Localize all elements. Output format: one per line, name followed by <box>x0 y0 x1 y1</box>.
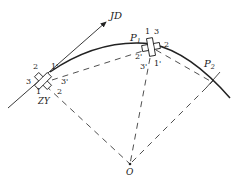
label-zy-3: 3 <box>26 77 31 86</box>
radius-zy-o <box>46 86 130 164</box>
label-p1-1: 1 <box>145 27 150 36</box>
chord-zy-p1 <box>52 50 146 80</box>
center-point-o <box>129 163 132 166</box>
label-zy: ZY <box>37 96 51 106</box>
label-p1-1p: 1' <box>154 59 161 68</box>
label-p1-3: 3 <box>154 27 159 36</box>
radius-p1-o <box>130 58 150 164</box>
label-p1-2p: 2' <box>135 52 142 61</box>
label-zy-1p: 1' <box>51 62 58 71</box>
label-zy-2: 2 <box>33 62 38 71</box>
radius-p2-o <box>130 80 214 164</box>
label-zy-3p: 3' <box>61 77 68 86</box>
label-p1-2: 2 <box>164 40 169 49</box>
curve-diagram: JD 2 1' 3 3' 1 2 ZY P1 1 3 2 2' 3' 1' P2… <box>0 0 238 188</box>
label-p1-3p: 3' <box>140 62 147 71</box>
label-jd: JD <box>108 10 122 21</box>
label-zy-1: 1 <box>36 87 41 96</box>
label-o: O <box>126 167 134 177</box>
label-zy-2p: 2 <box>57 87 62 96</box>
label-p2: P2 <box>203 58 215 71</box>
zy-cross-icon <box>30 68 55 93</box>
p1-cross-icon <box>141 37 162 58</box>
